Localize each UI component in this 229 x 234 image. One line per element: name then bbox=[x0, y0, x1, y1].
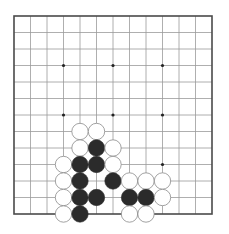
black-stone bbox=[72, 173, 88, 189]
go-board[interactable] bbox=[0, 0, 229, 234]
black-stone bbox=[72, 156, 88, 172]
black-stone bbox=[72, 206, 88, 222]
black-stone bbox=[88, 156, 104, 172]
black-stone bbox=[105, 173, 121, 189]
star-point bbox=[161, 64, 164, 67]
white-stone bbox=[154, 189, 170, 205]
white-stone bbox=[72, 123, 88, 139]
star-point bbox=[62, 113, 65, 116]
white-stone bbox=[55, 189, 71, 205]
black-stone bbox=[138, 189, 154, 205]
black-stone bbox=[88, 189, 104, 205]
white-stone bbox=[88, 123, 104, 139]
white-stone bbox=[138, 206, 154, 222]
star-point bbox=[111, 64, 114, 67]
white-stone bbox=[105, 140, 121, 156]
white-stone bbox=[121, 206, 137, 222]
white-stone bbox=[154, 173, 170, 189]
white-stone bbox=[72, 140, 88, 156]
white-stone bbox=[55, 156, 71, 172]
black-stone bbox=[121, 189, 137, 205]
white-stone bbox=[121, 173, 137, 189]
white-stone bbox=[55, 173, 71, 189]
white-stone bbox=[105, 156, 121, 172]
star-point bbox=[111, 113, 114, 116]
star-point bbox=[161, 163, 164, 166]
star-point bbox=[161, 113, 164, 116]
black-stone bbox=[72, 189, 88, 205]
white-stone bbox=[55, 206, 71, 222]
star-point bbox=[62, 64, 65, 67]
white-stone bbox=[138, 173, 154, 189]
black-stone bbox=[88, 140, 104, 156]
